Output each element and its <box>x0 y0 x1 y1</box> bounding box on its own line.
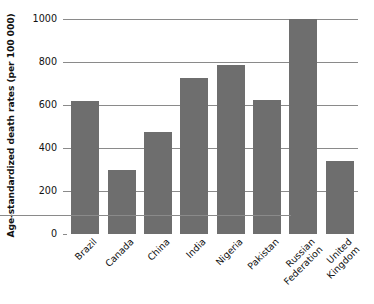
x-tick-label: RussianFederation <box>274 236 325 287</box>
bar <box>289 19 317 234</box>
x-tick-label-line: Pakistan <box>245 236 281 272</box>
x-tick-label-line: Nigeria <box>213 236 244 267</box>
y-tick-label: 600 <box>23 99 57 110</box>
y-tick-label: 1000 <box>23 13 57 24</box>
y-axis-title-text: Age-standardized death rates (per 100 00… <box>5 13 16 237</box>
x-tick-label-line: India <box>184 236 208 260</box>
y-tick-label: 0 <box>23 228 57 239</box>
bar <box>108 170 136 235</box>
x-tick-label: India <box>184 236 208 260</box>
x-tick-label: Pakistan <box>245 236 281 272</box>
x-tick-label-line: Brazil <box>72 236 98 262</box>
bars-layer <box>67 19 358 234</box>
bar <box>217 65 245 234</box>
x-tick-label: Nigeria <box>213 236 244 267</box>
x-tick-label: Canada <box>103 236 136 269</box>
x-axis-line <box>0 215 291 216</box>
y-tick-mark <box>63 234 67 235</box>
bar <box>326 161 354 234</box>
x-tick-label: UnitedKingdom <box>317 236 362 281</box>
bar <box>144 132 172 234</box>
x-axis-tick-labels: BrazilCanadaChinaIndiaNigeriaPakistanRus… <box>67 236 367 304</box>
y-axis-title: Age-standardized death rates (per 100 00… <box>0 0 20 250</box>
bar <box>180 78 208 234</box>
plot-area <box>67 19 358 234</box>
x-tick-label: Brazil <box>72 236 98 262</box>
y-tick-label: 200 <box>23 185 57 196</box>
x-tick-label: China <box>145 236 172 263</box>
x-tick-label-line: China <box>145 236 172 263</box>
bar <box>253 100 281 234</box>
y-tick-label: 800 <box>23 56 57 67</box>
y-tick-label: 400 <box>23 142 57 153</box>
bar-chart-figure: Age-standardized death rates (per 100 00… <box>0 0 374 304</box>
bar <box>71 101 99 234</box>
x-tick-label-line: Canada <box>103 236 136 269</box>
